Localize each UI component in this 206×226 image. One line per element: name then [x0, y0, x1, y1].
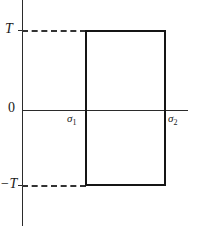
y-label-t-positive: T [5, 22, 13, 36]
y-axis [22, 0, 23, 226]
pulse-function-figure: T −T 0 σ1 σ2 [0, 0, 206, 226]
pulse-rectangle [85, 30, 166, 186]
dashed-leader-top [22, 30, 86, 32]
y-label-t-negative: −T [0, 177, 17, 191]
origin-label: 0 [8, 101, 15, 115]
sigma-2-subscript: 2 [173, 118, 177, 127]
x-label-sigma-1: σ1 [67, 113, 76, 127]
x-label-sigma-2: σ2 [168, 113, 177, 127]
dashed-leader-bottom [22, 185, 86, 187]
sigma-1-subscript: 1 [72, 118, 76, 127]
